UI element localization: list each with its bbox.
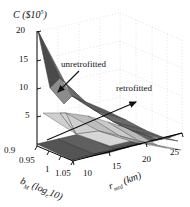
y-tick-15: 15 xyxy=(112,161,121,171)
x-tick-1-05: 1.05 xyxy=(55,168,71,178)
x-tick-0-9: 0.9 xyxy=(4,145,15,155)
z-axis-unit-open: ($10 xyxy=(20,9,41,20)
z-axis-unit-close: ) xyxy=(44,9,47,20)
annotation-retrofitted: retrofitted xyxy=(116,83,152,93)
figure-3d-surface-plot: C ($105) 20 15 10 5 0.9 0.95 1 1.05 10 1… xyxy=(0,0,190,207)
plot-canvas xyxy=(0,0,190,207)
x-tick-1: 1 xyxy=(45,164,50,174)
annotation-unretrofitted: unretrofitted xyxy=(61,59,106,69)
y-tick-25: 25 xyxy=(170,147,179,157)
z-tick-10: 10 xyxy=(19,82,28,92)
y-tick-20: 20 xyxy=(142,154,151,164)
x-tick-0-95: 0.95 xyxy=(19,155,35,165)
z-axis-label: C ($105) xyxy=(13,9,47,20)
z-axis-ticks xyxy=(37,31,41,117)
z-tick-20: 20 xyxy=(16,25,25,35)
z-axis-symbol: C xyxy=(13,9,20,20)
y-tick-10: 10 xyxy=(83,168,92,178)
z-tick-15: 15 xyxy=(19,54,28,64)
z-tick-5: 5 xyxy=(25,110,30,120)
